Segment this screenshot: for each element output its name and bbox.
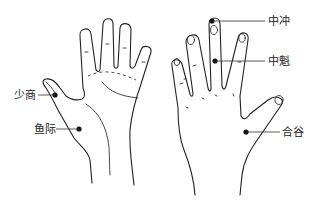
right-knuckle-6 [215,95,217,96]
left-thenar-crease [86,104,110,175]
label-zhongkui: 中魁 [268,54,290,68]
label-yuji: 鱼际 [34,122,56,136]
left-palm-crease [102,82,138,98]
right-hand: 中冲 中魁 合谷 [172,14,304,195]
left-thumb-nail-line [46,82,55,93]
label-zhongchong: 中冲 [268,14,290,28]
right-knuckle-7 [233,94,234,96]
right-knuckle-1 [180,83,183,84]
nail-index [239,34,245,42]
label-shaoshang: 少商 [14,88,36,102]
left-hand-outline [43,19,151,185]
acupoint-diagram: 少商 鱼际 中冲 中魁 合谷 [0,0,318,205]
left-hand: 少商 鱼际 [14,19,151,185]
nail-ring [188,36,195,45]
right-hand-outline [172,18,283,195]
nail-middle [211,26,218,35]
left-finger-base-crease [88,72,136,80]
right-knuckle-4 [186,107,188,108]
right-knuckle-2 [193,65,196,66]
label-hegu: 合谷 [282,125,304,139]
right-knuckle-5 [202,98,204,99]
